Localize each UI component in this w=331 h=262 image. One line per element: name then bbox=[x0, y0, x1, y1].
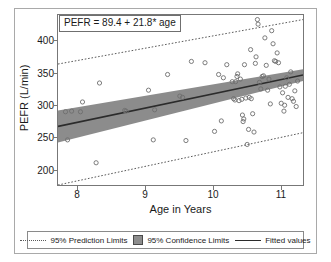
data-point bbox=[242, 117, 246, 121]
x-tick-label: 9 bbox=[130, 190, 160, 200]
data-point bbox=[236, 72, 240, 76]
data-point bbox=[270, 29, 274, 33]
data-point bbox=[225, 63, 229, 67]
legend-label: 95% Confidence Limits bbox=[147, 236, 229, 245]
data-point bbox=[242, 63, 246, 67]
legend-item-fitted-values: Fitted values bbox=[235, 236, 310, 245]
x-tick-label: 11 bbox=[266, 190, 296, 200]
data-point bbox=[275, 51, 279, 55]
data-point bbox=[294, 104, 298, 108]
plot-area bbox=[57, 14, 304, 186]
figure-root: PEFR (L/min) 400 350 300 250 200 PEFR = … bbox=[0, 0, 331, 262]
data-point bbox=[246, 127, 250, 131]
data-point bbox=[271, 42, 275, 46]
y-tick-label: 250 bbox=[20, 133, 54, 143]
legend-item-confidence-limits: 95% Confidence Limits bbox=[133, 235, 229, 245]
data-point bbox=[282, 109, 286, 113]
data-point bbox=[203, 61, 207, 65]
legend-label: Fitted values bbox=[265, 236, 310, 245]
data-point bbox=[146, 88, 150, 92]
x-axis-title: Age in Years bbox=[57, 203, 304, 215]
fitted-line bbox=[58, 75, 303, 126]
data-point bbox=[293, 89, 297, 93]
data-point bbox=[253, 61, 257, 65]
data-point bbox=[280, 91, 284, 95]
data-point bbox=[97, 81, 101, 85]
legend-label: 95% Prediction Limits bbox=[50, 236, 127, 245]
data-point bbox=[252, 130, 256, 134]
y-tick-label: 200 bbox=[20, 166, 54, 176]
data-point bbox=[80, 100, 84, 104]
solid-line-icon bbox=[235, 240, 261, 241]
y-tick-label: 350 bbox=[20, 69, 54, 79]
data-point bbox=[263, 36, 267, 40]
regression-equation-annotation: PEFR = 89.4 + 21.8* age bbox=[59, 15, 181, 32]
gray-swatch-icon bbox=[133, 235, 143, 245]
data-point bbox=[165, 72, 169, 76]
data-point bbox=[256, 22, 260, 26]
data-point bbox=[212, 129, 216, 133]
data-point bbox=[94, 161, 98, 165]
data-point bbox=[251, 112, 255, 116]
data-point bbox=[249, 48, 253, 52]
data-point bbox=[151, 138, 155, 142]
x-tick-label: 8 bbox=[62, 190, 92, 200]
data-point bbox=[286, 95, 290, 99]
y-tick-label: 400 bbox=[20, 36, 54, 46]
prediction-limit-lower bbox=[58, 133, 303, 185]
data-point bbox=[221, 76, 225, 80]
plot-canvas bbox=[58, 15, 303, 185]
legend-item-prediction-limits: 95% Prediction Limits bbox=[20, 236, 127, 245]
chart-legend: 95% Prediction Limits 95% Confidence Lim… bbox=[27, 231, 304, 249]
y-axis-ticks: 400 350 300 250 200 bbox=[16, 0, 54, 262]
data-point bbox=[184, 138, 188, 142]
y-tick-label: 300 bbox=[20, 101, 54, 111]
data-point bbox=[254, 55, 258, 59]
data-point bbox=[189, 59, 193, 63]
data-point bbox=[219, 119, 223, 123]
data-point bbox=[255, 17, 259, 21]
dotted-line-icon bbox=[20, 240, 46, 241]
data-point bbox=[264, 63, 268, 67]
data-point bbox=[283, 103, 287, 107]
confidence-band bbox=[58, 69, 303, 142]
x-tick-label: 10 bbox=[198, 190, 228, 200]
data-point bbox=[268, 102, 272, 106]
data-point bbox=[217, 72, 221, 76]
